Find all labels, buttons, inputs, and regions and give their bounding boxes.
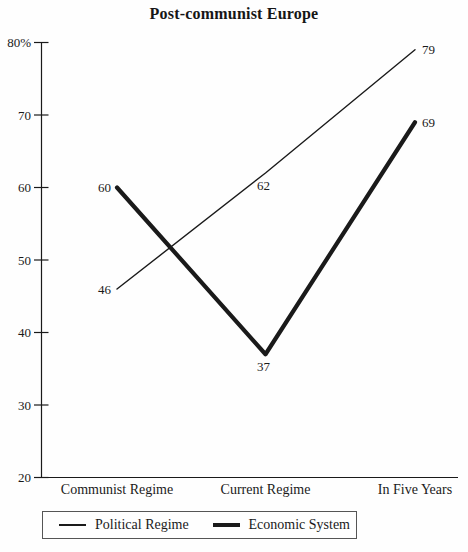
- chart-svg: 20304050607080%466279603769Communist Reg…: [0, 0, 468, 552]
- y-tick-label: 60: [18, 180, 31, 195]
- thin-line-swatch-icon: [59, 524, 86, 526]
- series-line-economic-system: [117, 122, 415, 354]
- y-tick-label: 70: [18, 108, 31, 123]
- point-label-economic-system-2: 69: [422, 115, 435, 130]
- chart-page: Post-communist Europe 20304050607080%466…: [0, 0, 468, 552]
- x-axis-label-current-regime: Current Regime: [221, 482, 311, 497]
- y-tick-label: 30: [18, 398, 31, 413]
- x-axis-label-in-five-years: In Five Years: [378, 482, 452, 497]
- y-tick-label: 80%: [7, 35, 31, 50]
- thick-line-swatch-icon: [213, 523, 240, 528]
- legend: Political Regime Economic System: [42, 511, 357, 539]
- legend-label-economic-system: Economic System: [249, 517, 351, 533]
- point-label-political-regime-0: 46: [98, 282, 112, 297]
- legend-entry-political-regime: Political Regime: [59, 517, 189, 533]
- point-label-economic-system-1: 37: [257, 359, 271, 374]
- legend-label-political-regime: Political Regime: [95, 517, 189, 533]
- y-tick-label: 20: [18, 470, 31, 485]
- legend-entry-economic-system: Economic System: [213, 517, 351, 533]
- series-line-political-regime: [117, 50, 415, 289]
- x-axis-label-communist-regime: Communist Regime: [61, 482, 173, 497]
- y-tick-label: 40: [18, 325, 31, 340]
- y-tick-label: 50: [18, 253, 31, 268]
- point-label-political-regime-1: 62: [257, 178, 270, 193]
- point-label-political-regime-2: 79: [422, 42, 435, 57]
- point-label-economic-system-0: 60: [98, 180, 111, 195]
